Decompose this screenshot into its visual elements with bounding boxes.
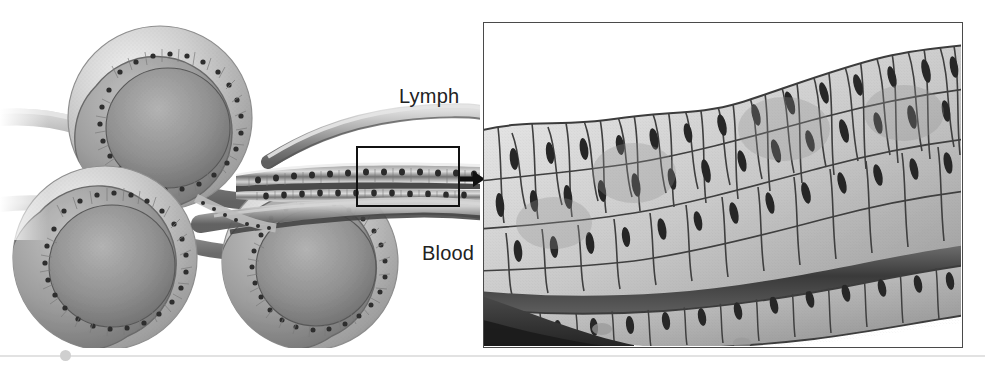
magnified-epithelium-panel — [483, 22, 963, 348]
footer-rule — [0, 355, 985, 357]
magnification-arrow — [458, 168, 486, 190]
label-blood: Blood — [422, 243, 474, 263]
inset-selection-rect — [356, 146, 460, 207]
footer-rule-dot — [60, 350, 71, 361]
label-lymph: Lymph — [399, 86, 459, 106]
figure-root: Lymph Blood — [0, 0, 985, 371]
